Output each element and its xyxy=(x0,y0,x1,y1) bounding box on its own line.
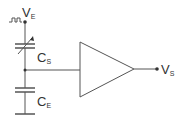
input-label: VE xyxy=(22,6,35,23)
pulse-icon xyxy=(9,18,22,22)
cs-label: CS xyxy=(37,51,51,68)
cs-label-sub: S xyxy=(46,58,51,65)
ce-label-sub: E xyxy=(46,102,51,109)
junction-dot xyxy=(24,69,27,72)
cs-label-main: C xyxy=(37,50,46,65)
output-label-sub: S xyxy=(170,70,175,77)
amplifier-triangle-icon xyxy=(80,42,134,97)
ce-label-main: C xyxy=(37,94,46,109)
input-label-main: V xyxy=(22,5,31,20)
output-label-main: V xyxy=(161,62,170,77)
input-label-sub: E xyxy=(31,13,36,20)
output-label: VS xyxy=(161,63,174,80)
output-node-dot xyxy=(155,67,159,71)
ce-label: CE xyxy=(37,95,51,112)
